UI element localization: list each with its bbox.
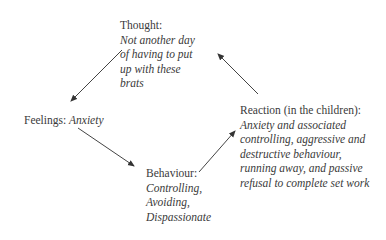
node-feelings: Feelings: Anxiety [24, 113, 104, 128]
reaction-line: controlling, aggressive and [240, 132, 369, 147]
behaviour-line: Controlling, [146, 181, 211, 196]
node-reaction: Reaction (in the children): Anxiety and … [240, 103, 369, 191]
behaviour-line: Avoiding, [146, 195, 211, 210]
thought-label: Thought: [120, 18, 195, 33]
arrow-thought-to-feelings [71, 50, 122, 101]
node-thought: Thought: Not another day of having to pu… [120, 18, 195, 91]
thought-line: brats [120, 76, 195, 91]
feelings-value: Anxiety [69, 114, 103, 126]
reaction-line: destructive behaviour, [240, 147, 369, 162]
feelings-label: Feelings: [24, 114, 66, 126]
behaviour-label: Behaviour: [146, 166, 211, 181]
node-behaviour: Behaviour: Controlling, Avoiding, Dispas… [146, 166, 211, 224]
reaction-label: Reaction (in the children): [240, 103, 369, 118]
thought-line: Not another day [120, 33, 195, 48]
reaction-line: running away, and passive [240, 161, 369, 176]
arrow-feelings-to-behaviour [78, 128, 134, 166]
behaviour-line: Dispassionate [146, 210, 211, 225]
reaction-line: Anxiety and associated [240, 118, 369, 133]
reaction-line: refusal to complete set work [240, 176, 369, 191]
arrow-reaction-to-thought [218, 54, 258, 94]
thought-line: of having to put [120, 47, 195, 62]
thought-line: up with these [120, 62, 195, 77]
